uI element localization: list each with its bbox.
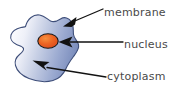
cell-diagram: membrane nucleus cytoplasm xyxy=(0,0,184,100)
label-membrane: membrane xyxy=(104,7,166,19)
label-cytoplasm: cytoplasm xyxy=(107,71,166,83)
nucleus-shape xyxy=(38,34,58,48)
label-nucleus: nucleus xyxy=(124,39,168,51)
